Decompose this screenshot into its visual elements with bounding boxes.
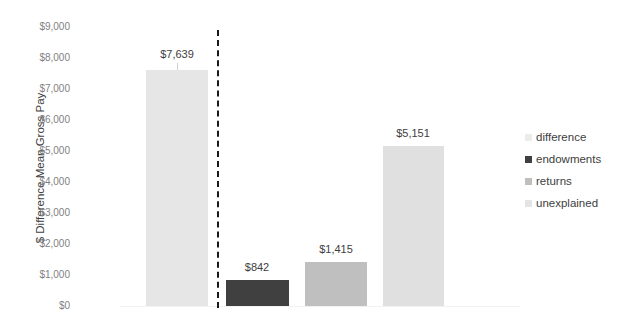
legend-item-endowments: endowments (525, 148, 601, 170)
legend: difference endowments returns unexplaine… (525, 126, 601, 214)
legend-swatch (525, 178, 532, 185)
legend-swatch (525, 134, 532, 141)
y-tick: $0 (30, 300, 70, 311)
legend-item-difference: difference (525, 126, 601, 148)
x-axis-baseline (120, 306, 520, 307)
legend-swatch (525, 156, 532, 163)
bar-chart: $ Difference Mean Gross Pay $0 $1,000 $2… (0, 0, 625, 330)
y-tick: $2,000 (30, 238, 70, 249)
y-tick: $7,000 (30, 83, 70, 94)
y-tick: $6,000 (30, 114, 70, 125)
y-tick: $5,000 (30, 145, 70, 156)
leader-line (177, 63, 178, 70)
y-tick: $8,000 (30, 52, 70, 63)
bar-difference (146, 70, 208, 306)
legend-item-returns: returns (525, 170, 601, 192)
value-label-returns: $1,415 (319, 243, 353, 255)
value-label-endowments: $842 (245, 261, 269, 273)
legend-swatch (525, 200, 532, 207)
bar-endowments (226, 280, 289, 306)
dashed-separator (217, 30, 219, 308)
y-tick: $3,000 (30, 207, 70, 218)
bar-returns (305, 262, 367, 306)
bar-unexplained (383, 146, 444, 306)
y-tick: $9,000 (30, 21, 70, 32)
y-tick: $4,000 (30, 176, 70, 187)
legend-label: difference (536, 131, 586, 143)
legend-label: endowments (536, 153, 601, 165)
y-tick: $1,000 (30, 269, 70, 280)
value-label-unexplained: $5,151 (396, 127, 430, 139)
legend-item-unexplained: unexplained (525, 192, 601, 214)
legend-label: returns (536, 175, 572, 187)
legend-label: unexplained (536, 197, 598, 209)
value-label-difference: $7,639 (160, 48, 194, 60)
